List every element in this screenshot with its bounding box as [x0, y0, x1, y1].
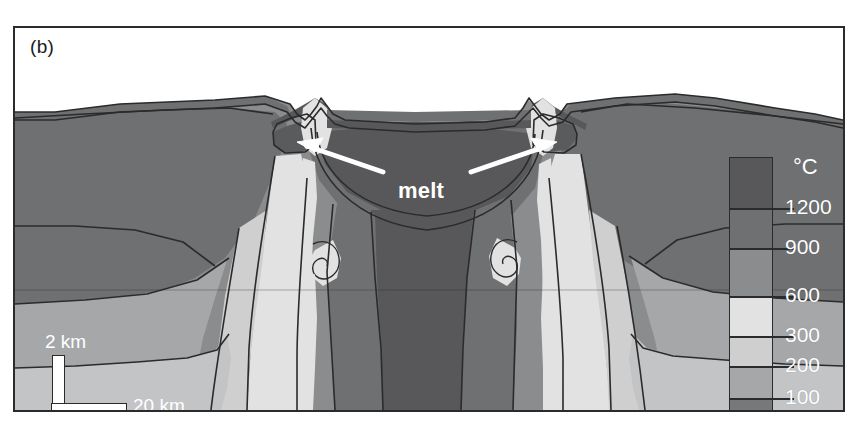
colorbar-label-900: 900 [785, 235, 820, 259]
colorbar-label-600: 600 [785, 283, 820, 307]
scale-bar-vertical-label: 2 km [45, 331, 86, 353]
scale-bar-vertical [52, 355, 65, 404]
colorbar-label-300: 300 [785, 323, 820, 347]
colorbar-separator-300 [729, 336, 773, 338]
figure-root: melt 2 km 20 km [0, 0, 858, 430]
colorbar-band-100-200 [729, 366, 773, 398]
panel-label: (b) [30, 36, 54, 58]
colorbar-band-200-300 [729, 336, 773, 366]
figure-frame: melt 2 km 20 km [13, 26, 845, 412]
colorbar-band-600-900 [729, 248, 773, 296]
cross-section-diagram [15, 28, 843, 410]
colorbar-separator-1200 [729, 208, 773, 210]
colorbar-label-1200: 1200 [785, 195, 832, 219]
colorbar-separator-100 [729, 398, 773, 400]
temperature-colorbar [729, 157, 773, 412]
colorbar-marker-arrow-icon [773, 411, 819, 412]
colorbar-separator-900 [729, 248, 773, 250]
colorbar-unit-label: °C [793, 154, 818, 180]
melt-label: melt [398, 178, 444, 204]
central-plume-stem-inner [387, 228, 459, 410]
colorbar-separator-200 [729, 366, 773, 368]
colorbar-band-900-1200 [729, 208, 773, 248]
colorbar-band-50-100 [729, 398, 773, 412]
scale-bar-horizontal-label: 20 km [133, 395, 185, 412]
colorbar-separator-600 [729, 296, 773, 298]
colorbar-label-50: 50 [785, 406, 808, 412]
colorbar-band-300-600 [729, 296, 773, 336]
plume-sheath-left [327, 204, 383, 410]
scale-bar-horizontal [51, 403, 127, 412]
colorbar-band-over-1200 [729, 157, 773, 208]
colorbar-label-200: 200 [785, 353, 820, 377]
